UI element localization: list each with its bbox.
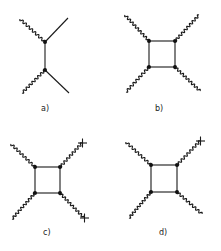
panel-label-a: a) (41, 104, 49, 113)
photon-line-bottom-right (177, 192, 202, 214)
panel-a: a) (20, 18, 69, 113)
panel-label-c: c) (43, 228, 51, 237)
vertex-dot (43, 40, 47, 44)
vertex-dot (175, 190, 179, 194)
fermion-box-loop (149, 41, 175, 67)
feynman-diagrams: a) b) c) (0, 0, 221, 251)
photon-line-top-right (177, 141, 200, 166)
vertex-dot (173, 65, 177, 69)
vertex-dot (147, 65, 151, 69)
panel-b: b) (125, 15, 201, 113)
panel-label-b: b) (155, 104, 163, 113)
photon-line-top-right (60, 143, 82, 168)
vertex-dot (175, 163, 179, 167)
photon-line-top-left (20, 19, 45, 42)
vertex-dot (173, 39, 177, 43)
vertex-dot (58, 191, 62, 195)
vertex-dot (149, 190, 153, 194)
vertex-dot (33, 191, 37, 195)
photon-line-bottom-right (175, 67, 201, 91)
photon-line-bottom-left (22, 70, 45, 94)
panel-c: c) (11, 139, 89, 238)
panel-d: d) (126, 137, 205, 238)
photon-line-top-left (11, 144, 36, 167)
photon-line-bottom-right (60, 193, 85, 218)
photon-line-bottom-left (12, 193, 35, 220)
fermion-box-loop (35, 167, 60, 193)
vertex-dot (33, 165, 37, 169)
vertex-dot (149, 163, 153, 167)
vertex-dot (147, 39, 151, 43)
photon-line-top-right (175, 15, 199, 42)
panel-label-d: d) (159, 228, 167, 237)
vertex-dot (43, 68, 47, 72)
fermion-line-bottom-right (45, 70, 69, 93)
fermion-line-top-right (45, 18, 68, 42)
fermion-box-loop (151, 165, 177, 192)
photon-line-bottom-left (129, 192, 151, 218)
vertex-dot (58, 165, 62, 169)
photon-line-bottom-left (126, 67, 149, 92)
photon-line-top-left (125, 15, 150, 41)
photon-line-top-left (126, 142, 151, 165)
